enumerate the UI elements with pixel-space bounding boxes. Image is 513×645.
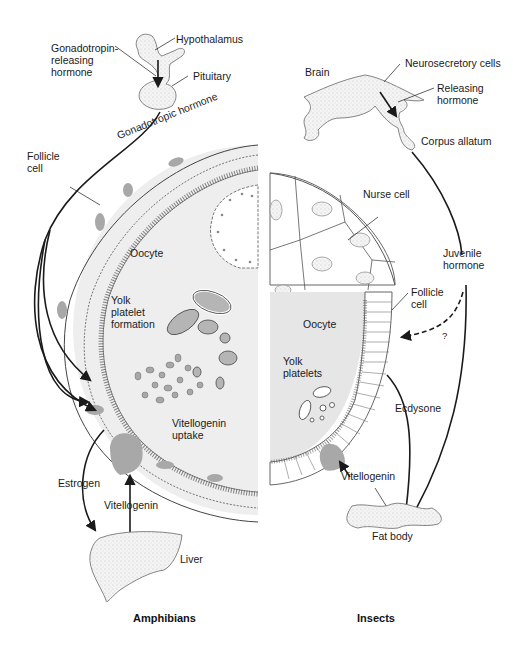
fat-body bbox=[347, 503, 441, 528]
label-fat-body: Fat body bbox=[372, 530, 413, 542]
amphibian-hypothalamus-pituitary bbox=[115, 34, 188, 109]
label-estrogen: Estrogen bbox=[58, 477, 100, 489]
label-question-mark: ? bbox=[442, 330, 447, 342]
label-liver: Liver bbox=[180, 553, 203, 565]
label-yolk-platelets: Yolk platelets bbox=[283, 355, 322, 379]
liver bbox=[90, 532, 182, 602]
label-follicle-cell-insect: Follicle cell bbox=[411, 286, 444, 310]
caption-amphibians: Amphibians bbox=[133, 612, 196, 624]
label-releasing-hormone: Releasing hormone bbox=[437, 82, 484, 106]
label-vitellogenin-uptake: Vitellogenin uptake bbox=[172, 417, 226, 441]
label-oocyte-insect: Oocyte bbox=[303, 318, 336, 330]
label-vitellogenin-insect: Vitellogenin bbox=[341, 470, 395, 482]
label-brain: Brain bbox=[305, 66, 330, 78]
label-corpus-allatum: Corpus allatum bbox=[421, 135, 492, 147]
amphibian-oocyte bbox=[57, 145, 258, 522]
label-juvenile-hormone: Juvenile hormone bbox=[443, 247, 484, 271]
label-neurosecretory-cells: Neurosecretory cells bbox=[405, 57, 501, 69]
label-gonadotropin-releasing-hormone: Gonadotropin- releasing hormone bbox=[51, 42, 118, 78]
label-hypothalamus: Hypothalamus bbox=[176, 33, 243, 45]
label-ecdysone: Ecdysone bbox=[395, 402, 441, 414]
label-yolk-platelet-formation: Yolk platelet formation bbox=[111, 294, 155, 330]
caption-insects: Insects bbox=[357, 612, 395, 624]
label-pituitary: Pituitary bbox=[193, 70, 231, 82]
label-oocyte-amphibian: Oocyte bbox=[130, 247, 163, 259]
label-nurse-cell: Nurse cell bbox=[363, 188, 410, 200]
label-vitellogenin-amphibian: Vitellogenin bbox=[104, 499, 158, 511]
label-follicle-cell-amphibian: Follicle cell bbox=[27, 150, 60, 174]
